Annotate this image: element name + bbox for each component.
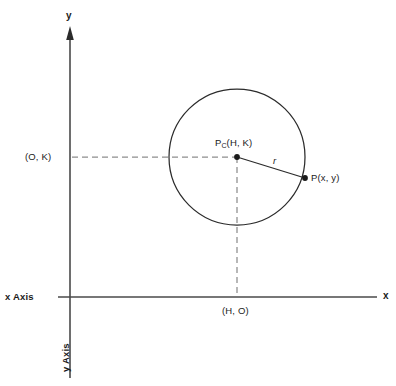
geometry-diagram-canvas: y x x Axis y Axis (O, K) (H, O) PC(H, K)… <box>0 0 396 386</box>
x-intercept-label: (H, O) <box>222 306 249 316</box>
circle-center-point-marker <box>234 154 240 160</box>
point-p-marker <box>302 175 308 181</box>
point-p-label: P(x, y) <box>311 173 340 183</box>
diagram-vector-layer <box>0 0 396 386</box>
y-axis-name-label: y Axis <box>61 343 71 372</box>
circle-center-label-coordinates: (H, K) <box>227 137 253 148</box>
y-intercept-label: (O, K) <box>25 152 51 162</box>
y-axis-tip-label: y <box>66 11 72 21</box>
x-axis-name-label: x Axis <box>5 292 34 302</box>
x-axis-tip-label: x <box>383 291 389 301</box>
radius-label: r <box>273 156 276 166</box>
y-axis-arrowhead <box>66 26 74 40</box>
radius-segment <box>237 157 305 178</box>
circle-center-label: PC(H, K) <box>215 138 252 149</box>
